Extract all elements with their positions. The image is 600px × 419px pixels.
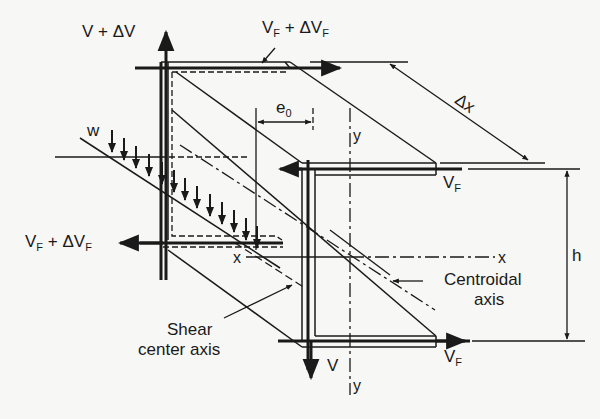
centroidal-axis-label-line1: Centroidal (444, 271, 522, 288)
vf-mid-label: VF (443, 174, 461, 194)
y-bottom-label: y (353, 378, 361, 394)
vf-bottom-label: VF (444, 348, 462, 368)
v-bottom-label: V (327, 357, 338, 374)
v-plus-dv-label: V + ΔV (82, 23, 135, 40)
h-label: h (572, 247, 581, 264)
y-top-label: y (353, 128, 361, 144)
x-left-label: x (233, 250, 241, 266)
w-label: w (87, 122, 99, 139)
far-channel-section (278, 160, 470, 370)
near-channel-section (135, 62, 290, 280)
e0-label: e0 (276, 99, 292, 119)
vf-plus-dvf-left-label: VF + ΔVF (25, 233, 92, 253)
x-right-label: x (498, 250, 506, 266)
channel-shear-diagram (0, 0, 600, 419)
diagram-canvas: V + ΔV VF + ΔVF VF + ΔVF VF VF V w e0 Δx… (0, 0, 600, 419)
shear-center-axis-label-line2: center axis (138, 341, 220, 358)
vf-plus-dvf-top-label: VF + ΔVF (262, 19, 329, 39)
centroidal-axis-label-line2: axis (474, 291, 504, 308)
shear-center-axis-label-line1: Shear (167, 321, 212, 338)
